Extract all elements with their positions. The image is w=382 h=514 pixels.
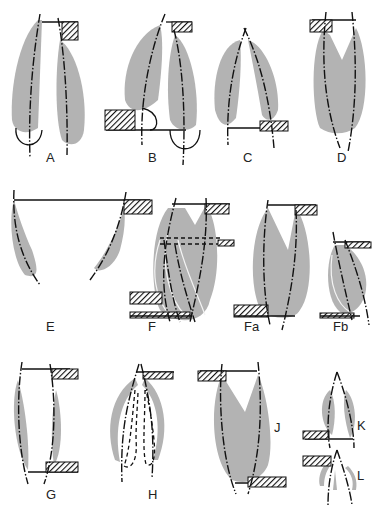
label-f: F	[148, 319, 156, 334]
label-g: G	[46, 487, 56, 502]
label-j: J	[274, 420, 281, 435]
panel-k-drawing	[303, 372, 355, 448]
label-a: A	[46, 150, 55, 165]
label-k: K	[357, 418, 366, 433]
panel-j-drawing	[198, 362, 286, 494]
diagram-canvas	[0, 0, 382, 514]
panel-b-drawing	[105, 14, 200, 165]
label-c: C	[243, 150, 252, 165]
panel-fa-drawing	[234, 200, 317, 330]
label-h: H	[148, 487, 157, 502]
label-fb: Fb	[333, 319, 348, 334]
panel-fb-drawing	[320, 232, 371, 325]
panel-f-drawing	[130, 198, 234, 322]
panel-l-drawing	[303, 450, 357, 505]
label-fa: Fa	[244, 319, 259, 334]
label-l: L	[357, 468, 364, 483]
label-b: B	[148, 150, 157, 165]
panel-h-drawing	[110, 364, 174, 482]
panel-e-drawing	[11, 190, 152, 285]
label-e: E	[46, 319, 55, 334]
panel-c-drawing	[214, 28, 288, 148]
label-d: D	[337, 150, 346, 165]
panel-a-drawing	[12, 14, 85, 158]
panel-d-drawing	[310, 12, 366, 152]
panel-g-drawing	[14, 362, 78, 484]
